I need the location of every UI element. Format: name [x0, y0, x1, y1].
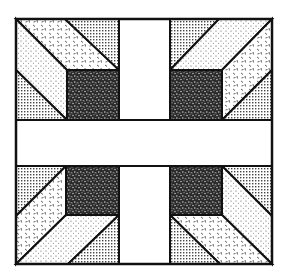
quadrant-bottom-left [16, 166, 119, 264]
quilt-block-svg [0, 0, 283, 275]
quadrant-bottom-right [170, 166, 272, 264]
quadrant-top-left [16, 19, 119, 120]
quadrant-top-right [170, 19, 272, 120]
quilt-block-figure: Quilt block pattern [0, 0, 283, 275]
